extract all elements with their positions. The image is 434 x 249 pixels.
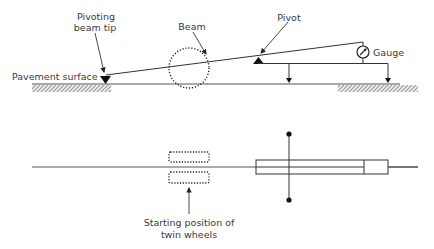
- label-beam: Beam: [178, 21, 205, 32]
- side-view: Pivoting beam tip Beam Pivot Gauge Pavem…: [12, 11, 418, 92]
- foot-dot-top: [286, 131, 291, 136]
- plan-view: Starting position of twin wheels: [32, 131, 418, 240]
- pivot-icon: [253, 57, 264, 64]
- ground-hatch-right: [338, 85, 418, 92]
- pivot-leader: [261, 22, 288, 53]
- front-leg-arrow-icon: [286, 78, 292, 83]
- twin-wheel-upper: [169, 152, 209, 162]
- wheel-circle: [169, 48, 209, 88]
- beam-tip-icon: [100, 76, 111, 84]
- gauge-icon: [357, 46, 369, 58]
- rear-leg-arrow-icon: [385, 78, 391, 83]
- beam-leader: [193, 32, 206, 54]
- twin-wheel-lower: [169, 172, 209, 183]
- beam-line: [106, 42, 363, 75]
- label-starting-line2: twin wheels: [161, 229, 217, 240]
- ground-hatch-left: [32, 85, 111, 92]
- benkelman-beam-diagram: Pivoting beam tip Beam Pivot Gauge Pavem…: [0, 0, 434, 249]
- label-pivot: Pivot: [277, 12, 301, 23]
- beam-tip-leader: [95, 33, 104, 72]
- label-pavement-surface: Pavement surface: [12, 71, 98, 82]
- foot-dot-bottom: [286, 197, 291, 202]
- label-pivoting-line1: Pivoting: [77, 11, 115, 22]
- label-pivoting-line2: beam tip: [74, 22, 116, 33]
- label-starting-line1: Starting position of: [144, 217, 235, 228]
- label-gauge: Gauge: [373, 47, 404, 58]
